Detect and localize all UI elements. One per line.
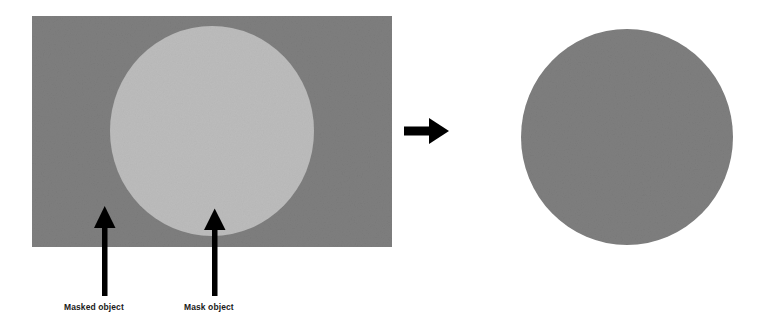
mask-object-label: Mask object — [184, 302, 234, 312]
masking-diagram — [0, 0, 774, 327]
left-composite-group — [32, 16, 392, 247]
transform-arrow-icon — [404, 118, 449, 144]
diagram-canvas: Masked object Mask object — [0, 0, 774, 327]
result-group — [521, 29, 733, 245]
masked-object-label: Masked object — [64, 302, 124, 312]
mask-object-ellipse — [110, 26, 314, 236]
result-ellipse — [521, 29, 733, 245]
